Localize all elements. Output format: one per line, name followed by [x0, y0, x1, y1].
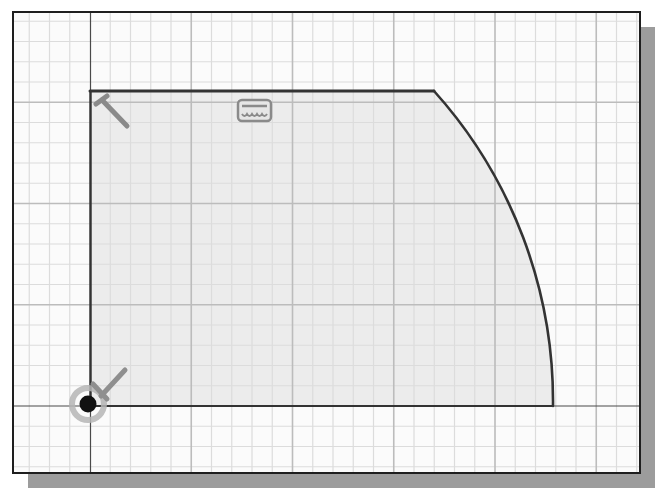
sketch-canvas[interactable]	[0, 0, 660, 504]
sketch-viewport[interactable]: 2D sketch profile with constraints	[0, 0, 660, 504]
horizontal-constraint-icon[interactable]	[238, 100, 271, 121]
